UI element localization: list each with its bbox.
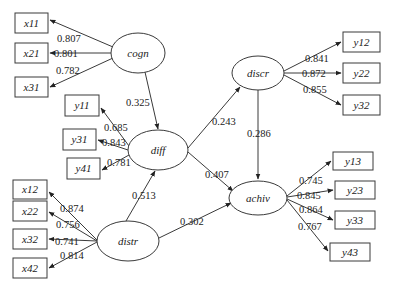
latent-cogn: cogn <box>111 33 165 73</box>
svg-text:y31: y31 <box>71 133 88 145</box>
coef-achiv-y33: 0.864 <box>299 204 323 215</box>
coef-distr-x12: 0.874 <box>60 203 84 214</box>
observed-y31: y31 <box>63 129 96 150</box>
observed-x12: x12 <box>13 180 47 199</box>
coef-discr-y22: 0.872 <box>302 68 326 79</box>
svg-text:x22: x22 <box>21 205 38 217</box>
svg-text:x31: x31 <box>23 81 40 93</box>
svg-text:y41: y41 <box>75 162 92 174</box>
coef-diff-achiv: 0.407 <box>205 169 229 180</box>
coef-achiv-y13: 0.745 <box>299 175 323 186</box>
svg-text:discr: discr <box>247 67 270 79</box>
svg-text:y43: y43 <box>341 246 358 258</box>
svg-text:cogn: cogn <box>127 47 149 59</box>
coef-achiv-y23: 0.845 <box>297 190 321 201</box>
svg-text:y32: y32 <box>353 99 370 111</box>
svg-text:y11: y11 <box>73 99 89 111</box>
svg-text:achiv: achiv <box>246 192 270 204</box>
svg-text:y23: y23 <box>346 184 363 196</box>
observed-y12: y12 <box>343 32 380 52</box>
coef-diff-y31: 0.843 <box>102 137 126 148</box>
coef-cogn-x11: 0.807 <box>57 33 81 44</box>
latent-discr: discr <box>232 56 284 90</box>
observed-y33: y33 <box>335 211 375 229</box>
observed-x11: x11 <box>15 13 48 33</box>
svg-text:y33: y33 <box>346 214 363 226</box>
observed-x32: x32 <box>13 229 47 249</box>
observed-x42: x42 <box>13 258 47 278</box>
svg-text:y12: y12 <box>353 36 370 48</box>
coef-discr-y32: 0.855 <box>303 84 327 95</box>
svg-text:x32: x32 <box>21 233 38 245</box>
observed-y43: y43 <box>330 243 370 261</box>
coef-diff-y41: 0.781 <box>107 157 131 168</box>
observed-y32: y32 <box>343 95 380 115</box>
sem-path-diagram: x11 x21 x31 y11 y31 y41 x12 x22 x32 x42 … <box>0 0 394 291</box>
svg-text:x12: x12 <box>21 183 38 195</box>
observed-y13: y13 <box>333 152 373 170</box>
observed-x22: x22 <box>13 201 47 221</box>
svg-text:x21: x21 <box>23 47 40 59</box>
coef-cogn-x21: 0.801 <box>54 48 78 59</box>
observed-x31: x31 <box>15 77 48 97</box>
coef-achiv-y43: 0.767 <box>298 221 322 232</box>
observed-x21: x21 <box>15 43 48 63</box>
svg-text:distr: distr <box>118 235 139 247</box>
coef-cogn-x31: 0.782 <box>56 65 80 76</box>
svg-text:x11: x11 <box>23 17 39 29</box>
latent-diff: diff <box>128 130 188 170</box>
coef-diff-discr: 0.243 <box>212 116 236 127</box>
latent-achiv: achiv <box>229 181 287 215</box>
coef-distr-x22: 0.756 <box>56 219 80 230</box>
coef-distr-diff: 0.513 <box>132 190 156 201</box>
coef-distr-x42: 0.814 <box>60 250 84 261</box>
coef-distr-x32: 0.741 <box>55 236 79 247</box>
coef-discr-y12: 0.841 <box>305 53 329 64</box>
coef-discr-achiv: 0.286 <box>247 128 271 139</box>
coef-diff-y11: 0.685 <box>104 122 128 133</box>
observed-y23: y23 <box>335 181 375 199</box>
svg-text:y13: y13 <box>344 155 361 167</box>
svg-text:x42: x42 <box>21 262 38 274</box>
svg-text:diff: diff <box>151 144 168 156</box>
coef-cogn-diff: 0.325 <box>126 97 150 108</box>
observed-y22: y22 <box>343 63 380 83</box>
coef-distr-achiv: 0.302 <box>180 216 204 227</box>
latent-distr: distr <box>97 221 159 261</box>
observed-y11: y11 <box>65 95 99 116</box>
svg-text:y22: y22 <box>353 67 370 79</box>
observed-y41: y41 <box>67 158 100 179</box>
